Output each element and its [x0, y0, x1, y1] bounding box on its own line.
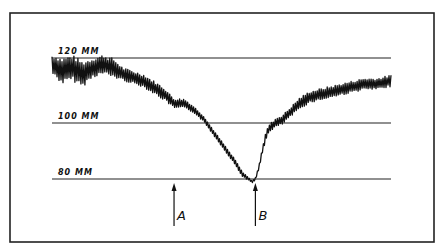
pressure-trace-line [52, 56, 391, 183]
arrow-up-icon [253, 183, 258, 191]
reference-lines [52, 58, 391, 179]
chart-canvas: 120 MM100 MM80 MM AB [0, 0, 443, 249]
marker-label: A [176, 208, 186, 223]
arrow-up-icon [172, 183, 177, 191]
event-markers: AB [172, 183, 268, 226]
reference-label-120: 120 MM [58, 47, 99, 56]
reference-label-100: 100 MM [58, 112, 99, 121]
marker-a: A [172, 183, 186, 226]
marker-label: B [258, 208, 267, 223]
reference-label-80: 80 MM [58, 168, 93, 177]
marker-b: B [253, 183, 268, 226]
